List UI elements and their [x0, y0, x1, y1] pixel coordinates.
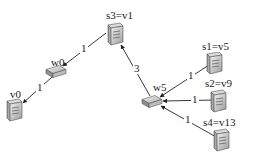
- edge-s2-w5: [163, 100, 216, 101]
- edge-weight-s1-w5: 1: [187, 70, 195, 81]
- router-icon-w5[interactable]: [142, 96, 162, 108]
- edge-weight-w0-v0: 1: [36, 82, 44, 93]
- server-icon-s1[interactable]: [207, 52, 222, 74]
- node-label-s3: s3=v1: [106, 10, 133, 21]
- node-label-s4: s4=v13: [203, 117, 235, 128]
- node-label-s1: s1=v5: [202, 41, 229, 52]
- edge-weight-s4-w5: 1: [184, 114, 192, 125]
- edge-weight-w5-s3: 3: [133, 63, 141, 74]
- node-label-w0: w0: [51, 57, 64, 68]
- server-icon-s4[interactable]: [214, 129, 229, 151]
- server-icon-v0[interactable]: [7, 99, 22, 121]
- edge-weight-s2-w5: 1: [191, 94, 199, 105]
- server-icon-s2[interactable]: [211, 90, 226, 112]
- node-label-v0: v0: [10, 89, 21, 100]
- node-label-s2: s2=v9: [205, 78, 232, 89]
- server-icon-s3[interactable]: [108, 23, 123, 45]
- edge-weight-s3-w0: 1: [80, 43, 88, 54]
- node-label-w5: w5: [153, 82, 166, 93]
